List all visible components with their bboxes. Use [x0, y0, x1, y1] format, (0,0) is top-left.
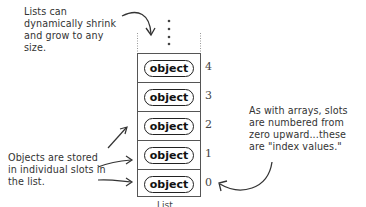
- index-label: 3: [205, 89, 212, 102]
- annotation-storage: Objects are stored in individual slots i…: [8, 152, 108, 188]
- annotation-resize: Lists can dynamically shrink and grow to…: [24, 6, 124, 54]
- index-label: 2: [205, 118, 212, 131]
- object-pill: object: [144, 60, 194, 77]
- list-slot-3: object: [138, 83, 200, 112]
- index-label: 4: [205, 60, 212, 73]
- list-slot-4: object: [138, 54, 200, 83]
- index-label: 0: [205, 176, 212, 189]
- grow-arrow-icon: [122, 13, 151, 34]
- list-slot-1: object: [138, 141, 200, 170]
- index-arrow-icon: [220, 162, 272, 190]
- index-label: 1: [205, 147, 212, 160]
- slot-arrow-icon: [108, 128, 126, 148]
- object-pill: object: [144, 147, 194, 164]
- list-caption: List: [157, 200, 173, 207]
- object-pill: object: [144, 176, 194, 193]
- list-slot-0: object: [138, 170, 200, 199]
- annotation-index: As with arrays, slots are numbered from …: [249, 105, 364, 153]
- list-container: object object object object object: [137, 53, 201, 197]
- object-pill: object: [144, 118, 194, 135]
- list-slot-2: object: [138, 112, 200, 141]
- ellipsis-dots-icon: [168, 20, 171, 46]
- object-pill: object: [144, 89, 194, 106]
